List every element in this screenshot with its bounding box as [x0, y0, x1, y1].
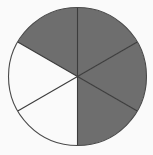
pie-chart-svg: [0, 0, 153, 155]
pie-figure-container: [0, 0, 153, 155]
